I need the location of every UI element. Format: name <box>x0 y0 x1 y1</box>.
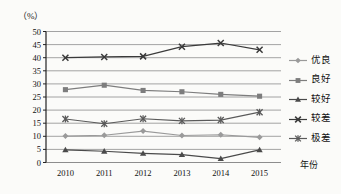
data-point-square <box>296 78 301 83</box>
y-tick-label: 5 <box>37 144 41 154</box>
series-line <box>65 85 259 96</box>
y-tick-label: 40 <box>33 53 42 63</box>
x-tick-label: 2011 <box>96 168 113 178</box>
legend-label: 较好 <box>311 95 331 105</box>
legend-item-极差[interactable]: 极差 <box>288 133 331 144</box>
data-point-square <box>218 92 223 97</box>
y-tick-labels: 05101520253035404550 <box>33 27 47 168</box>
y-tick-label: 25 <box>33 92 42 102</box>
legend-marker-triangle-icon <box>288 94 308 105</box>
data-point-diamond <box>140 128 146 134</box>
series-2 <box>62 147 262 161</box>
series-4 <box>62 109 262 127</box>
legend-item-良好[interactable]: 良好 <box>288 75 331 86</box>
legend-item-优良[interactable]: 优良 <box>288 55 331 66</box>
x-tick-label: 2014 <box>212 168 230 178</box>
y-tick-label: 50 <box>33 27 42 37</box>
series-line <box>65 150 259 159</box>
data-point-diamond <box>295 58 301 64</box>
y-tick-label: 35 <box>33 66 42 76</box>
legend-label: 较差 <box>311 114 331 124</box>
data-point-diamond <box>101 132 107 138</box>
legend-marker-square-icon <box>288 75 308 86</box>
data-point-diamond <box>179 133 185 139</box>
data-point-square <box>257 94 262 99</box>
data-point-diamond <box>62 133 68 139</box>
data-point-square <box>102 83 107 88</box>
data-point-diamond <box>257 134 263 140</box>
data-point-square <box>63 87 68 92</box>
line-chart: （%） 05101520253035404550 201020112012201… <box>0 0 341 194</box>
y-tick-label: 15 <box>33 118 42 128</box>
x-tick-label: 2013 <box>173 168 190 178</box>
legend-marker-diamond-icon <box>288 55 308 66</box>
y-tick-label: 20 <box>33 105 42 115</box>
x-tick-labels: 201020112012201320142015 <box>57 168 268 178</box>
y-tick-label: 30 <box>33 79 42 89</box>
legend-label: 极差 <box>311 134 331 144</box>
series-0 <box>62 128 262 140</box>
series-line <box>65 112 259 124</box>
legend-marker-x-icon <box>288 114 308 125</box>
legend-item-较好[interactable]: 较好 <box>288 94 331 105</box>
x-tick-label: 2012 <box>135 168 152 178</box>
x-tick-label: 2015 <box>251 168 268 178</box>
data-point-diamond <box>218 132 224 138</box>
y-tick-label: 10 <box>33 131 42 141</box>
series-1 <box>63 83 262 99</box>
x-tick-label: 2010 <box>57 168 74 178</box>
legend-item-较差[interactable]: 较差 <box>288 114 331 125</box>
y-tick-label: 45 <box>33 40 42 50</box>
data-point-square <box>141 88 146 93</box>
legend-marker-asterisk-icon <box>288 133 308 144</box>
data-series-layer <box>62 40 262 161</box>
legend-label: 良好 <box>311 75 331 85</box>
data-point-square <box>179 89 184 94</box>
series-line <box>65 43 259 58</box>
y-tick-label: 0 <box>37 158 41 168</box>
legend-label: 优良 <box>311 56 331 66</box>
x-axis-title: 年份 <box>300 159 318 170</box>
